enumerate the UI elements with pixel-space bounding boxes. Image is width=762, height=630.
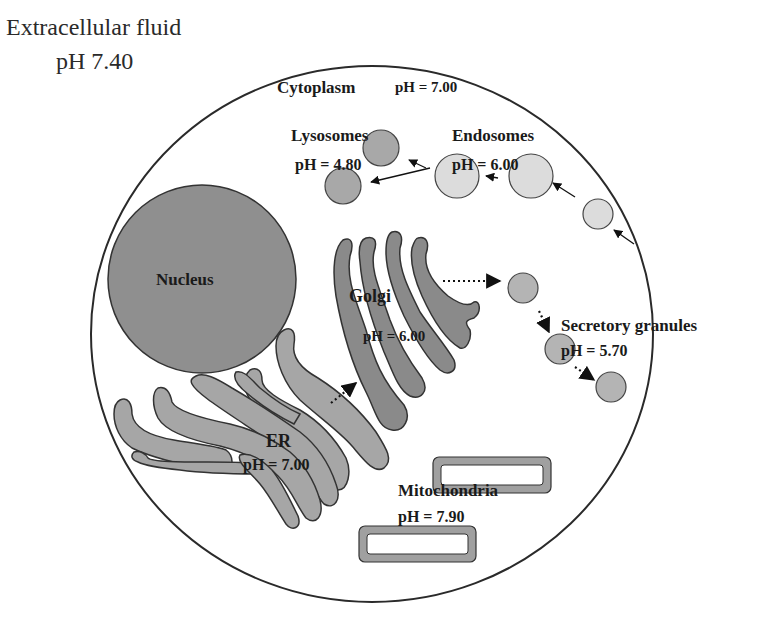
mitochondria-label: Mitochondria	[398, 481, 498, 501]
lysosomes-ph: pH = 4.80	[295, 156, 361, 174]
cytoplasm-ph: pH = 7.00	[395, 79, 457, 96]
endosomes-label: Endosomes	[452, 126, 534, 146]
cytoplasm-label: Cytoplasm	[277, 78, 355, 98]
golgi-label: Golgi	[349, 286, 391, 307]
endosomes-ph: pH = 6.00	[452, 156, 518, 174]
mitochondria-ph: pH = 7.90	[398, 508, 464, 526]
lysosomes-label: Lysosomes	[291, 126, 368, 146]
extracellular-ph: pH 7.40	[56, 48, 133, 75]
er-ph: pH = 7.00	[243, 456, 309, 474]
extracellular-label: Extracellular fluid	[6, 14, 181, 41]
secretory-granules-label: Secretory granules	[561, 316, 697, 336]
cell-diagram	[0, 0, 762, 630]
secretory-granules-ph: pH = 5.70	[561, 342, 627, 360]
er-label: ER	[266, 431, 291, 452]
nucleus-label: Nucleus	[156, 270, 214, 290]
golgi-ph: pH = 6.00	[363, 328, 425, 345]
